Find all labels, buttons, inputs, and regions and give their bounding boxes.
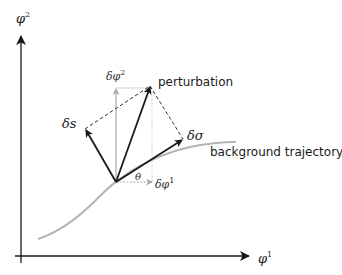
- diagram-canvas: φ2 φ1 δφ2 perturbation δs δσ background …: [0, 0, 342, 275]
- perturbation-label: perturbation: [158, 75, 233, 89]
- background-trajectory-label: background trajectory: [210, 145, 342, 159]
- perturbation-arrow: [116, 87, 150, 182]
- dashed-line-perturbation-to-sigma: [150, 86, 183, 139]
- x-axis-label: φ1: [258, 250, 272, 266]
- y-axis-label: φ2: [16, 10, 30, 26]
- delta-s-arrow: [86, 130, 116, 182]
- delta-s-label: δs: [62, 116, 77, 131]
- delta-phi2-label: δφ2: [106, 68, 125, 83]
- background-trajectory-curve: [38, 142, 236, 239]
- delta-phi1-label: δφ1: [155, 176, 174, 191]
- dashed-line-s-to-perturbation: [85, 86, 150, 129]
- theta-label: θ: [135, 171, 141, 182]
- delta-sigma-label: δσ: [187, 128, 205, 143]
